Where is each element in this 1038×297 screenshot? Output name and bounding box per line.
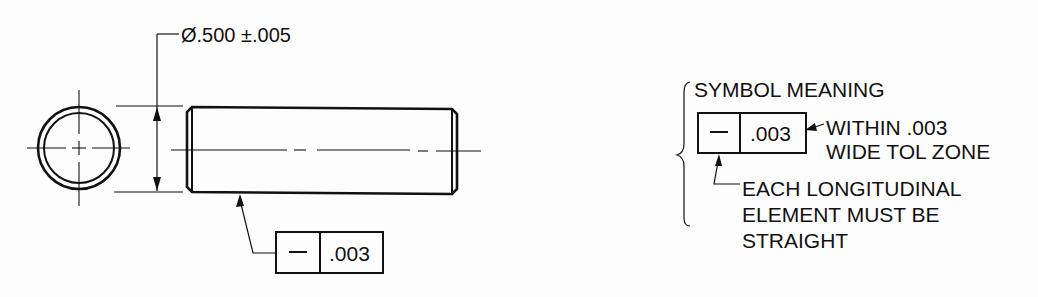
legend-title: SYMBOL MEANING [694,78,885,101]
side-view-centerline [171,150,481,151]
dimension-arrow-top-icon [153,107,161,121]
technical-drawing: Ø.500 ±.005 .003 SYMBOL MEANING .003 [0,0,1038,297]
legend-brace-icon [677,82,690,226]
symbol-note-arrow-icon [715,154,722,166]
tolerance-note-line-2: WIDE TOL ZONE [826,140,990,163]
symbol-note-line-3: STRAIGHT [742,229,848,252]
symbol-note-line-1: EACH LONGITUDINAL [742,177,961,200]
tolerance-note-line-1: WITHIN .003 [826,116,947,139]
legend-frame-tolerance: .003 [750,122,791,145]
diameter-dimension-text: Ø.500 ±.005 [181,24,291,46]
fcf-leader-line [240,200,276,253]
fcf-tolerance-value: .003 [329,242,370,265]
side-view [171,107,481,194]
symbol-note-leader [714,162,740,184]
tolerance-note: WITHIN .003 WIDE TOL ZONE [826,116,990,163]
dimension-arrow-bottom-icon [153,177,161,191]
feature-control-frame: .003 [236,194,383,273]
symbol-meaning-legend: SYMBOL MEANING .003 WITHIN .003 WIDE TOL… [677,78,990,252]
symbol-note: EACH LONGITUDINAL ELEMENT MUST BE STRAIG… [742,177,966,252]
end-view [27,90,130,206]
symbol-note-line-2: ELEMENT MUST BE [742,203,940,226]
